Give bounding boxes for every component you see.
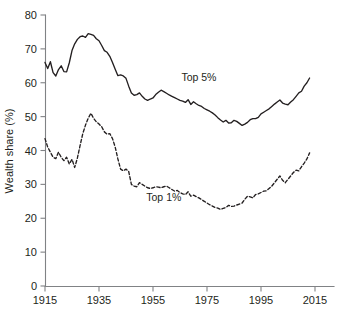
series-group bbox=[45, 34, 310, 210]
y-tick-label: 0 bbox=[31, 280, 37, 292]
y-tick-label: 50 bbox=[25, 111, 37, 123]
wealth-share-line-chart: 01020304050607080 1915193519551975199520… bbox=[0, 0, 355, 321]
series-annotations: Top 5%Top 1% bbox=[146, 71, 216, 203]
y-tick-label: 30 bbox=[25, 178, 37, 190]
y-tick-label: 10 bbox=[25, 246, 37, 258]
annotation-top-5: Top 5% bbox=[181, 71, 216, 83]
x-tick-label: 1915 bbox=[33, 294, 57, 306]
y-tick-label: 80 bbox=[25, 9, 37, 21]
y-tick-label: 70 bbox=[25, 43, 37, 55]
x-tick-label: 1955 bbox=[141, 294, 165, 306]
x-axis-ticks: 191519351955197519952015 bbox=[33, 287, 327, 307]
x-tick-label: 1935 bbox=[87, 294, 111, 306]
axes-group bbox=[45, 15, 334, 287]
x-tick-label: 2015 bbox=[303, 294, 327, 306]
x-tick-label: 1995 bbox=[249, 294, 273, 306]
x-tick-label: 1975 bbox=[195, 294, 219, 306]
annotation-top-1: Top 1% bbox=[146, 191, 181, 203]
chart-figure: 01020304050607080 1915193519551975199520… bbox=[0, 0, 355, 321]
y-tick-label: 40 bbox=[25, 145, 37, 157]
series-line-top-5 bbox=[45, 34, 310, 126]
y-axis-title: Wealth share (%) bbox=[3, 109, 15, 194]
y-tick-label: 20 bbox=[25, 212, 37, 224]
y-tick-label: 60 bbox=[25, 77, 37, 89]
y-axis-ticks: 01020304050607080 bbox=[25, 9, 46, 292]
